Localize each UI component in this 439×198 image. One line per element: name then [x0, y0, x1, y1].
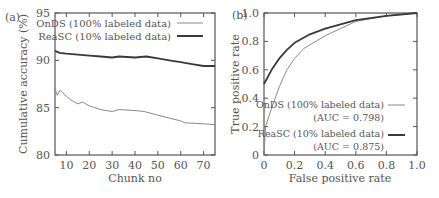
- x-tick-label: 0.2: [286, 159, 304, 172]
- x-tick-label: 70: [197, 159, 211, 172]
- y-tick-label: 85: [36, 102, 50, 115]
- legend-a-reasc: ReaSC (10% labeled data): [38, 31, 171, 42]
- y-tick-label: 0.6: [242, 64, 260, 77]
- x-tick-label: 1.0: [408, 159, 426, 172]
- chart-a: (a) 80859095 10203040506070 OnDS (100% l…: [5, 7, 215, 185]
- legend-b-onds-auc: (AUC = 0.798): [313, 112, 384, 123]
- y-label-a: Cumulative accuracy (%): [17, 14, 30, 154]
- y-tick-label: 1.0: [242, 7, 260, 20]
- legend-a-onds: OnDS (100% labeled data): [36, 18, 171, 29]
- x-tick-label: 0.8: [378, 159, 396, 172]
- series-line: [264, 13, 417, 84]
- y-label-b: True positive rate: [229, 34, 242, 133]
- x-tick-label: 10: [59, 159, 73, 172]
- x-label-b: False positive rate: [289, 172, 391, 185]
- y-tick-label: 80: [36, 149, 50, 162]
- legend-b-reasc-auc: (AUC = 0.875): [313, 141, 384, 152]
- y-tick-label: 0: [252, 149, 259, 162]
- legend-b-reasc: ReaSC (10% labeled data): [258, 128, 384, 139]
- legend-b: OnDS (100% labeled data) (AUC = 0.798) R…: [256, 99, 405, 152]
- x-tick-label: 50: [151, 159, 165, 172]
- legend-a: OnDS (100% labeled data) ReaSC (10% labe…: [36, 18, 203, 42]
- y-tick-label: 0.8: [242, 35, 260, 48]
- series-line: [55, 51, 215, 66]
- legend-b-onds: OnDS (100% labeled data): [256, 99, 384, 110]
- x-label-a: Chunk no: [108, 172, 162, 185]
- figure: (a) 80859095 10203040506070 OnDS (100% l…: [0, 0, 439, 198]
- x-tick-label: 40: [128, 159, 142, 172]
- x-tick-label: 30: [105, 159, 119, 172]
- y-tick-label: 90: [36, 54, 50, 67]
- x-tick-label: 20: [82, 159, 96, 172]
- x-tick-label: 0.6: [347, 159, 365, 172]
- x-tick-label: 60: [174, 159, 188, 172]
- x-tick-label: 0: [261, 159, 268, 172]
- series-a: [55, 51, 215, 125]
- series-line: [55, 89, 215, 125]
- chart-b: (b) 00.20.40.60.81.0 00.20.40.60.81.0 On…: [229, 7, 426, 185]
- y-tick-label: 0.2: [242, 121, 260, 134]
- x-tick-label: 0.4: [316, 159, 334, 172]
